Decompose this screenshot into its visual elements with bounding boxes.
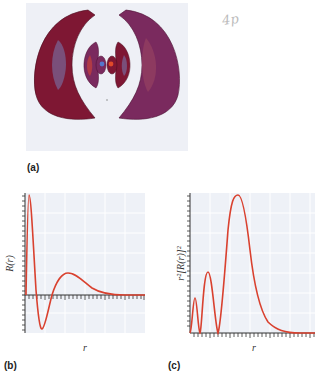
nucleus-dot	[106, 99, 108, 101]
x-axis-label-b: r	[83, 342, 87, 353]
figure-canvas	[0, 0, 320, 378]
y-axis-label-b: R(r)	[4, 249, 15, 279]
chart-b	[22, 193, 145, 333]
panel-label-b: (b)	[4, 360, 17, 371]
panel-label-c: (c)	[168, 360, 180, 371]
handwritten-note: 4p	[221, 11, 240, 28]
core-node-red	[109, 62, 114, 67]
chart-c	[187, 193, 315, 338]
y-axis-label-c: r²[R(r)]²	[175, 234, 186, 294]
core-node-blue	[100, 62, 105, 67]
x-axis-label-c: r	[252, 342, 256, 353]
panel-label-a: (a)	[27, 162, 39, 173]
